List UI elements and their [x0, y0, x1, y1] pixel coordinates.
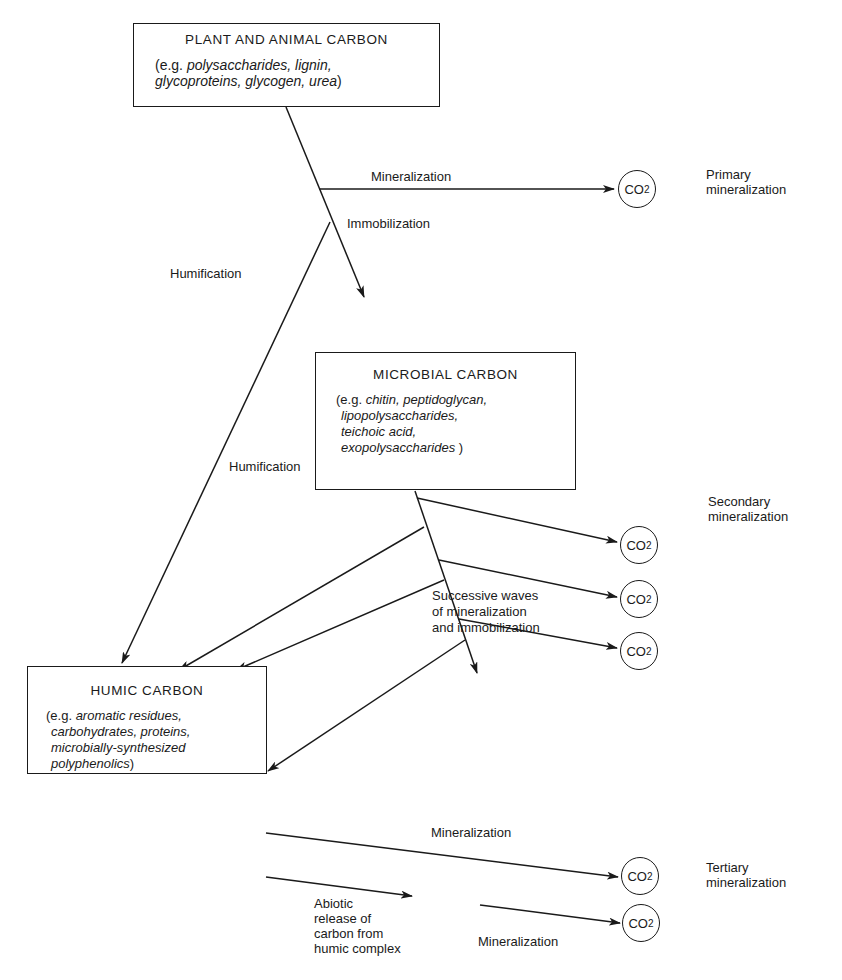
arrow-humification-return-1: [179, 527, 424, 670]
stage-secondary-mineralization: Secondarymineralization: [708, 494, 788, 524]
co2-abiotic: CO2: [622, 904, 660, 942]
humic-carbon-examples: (e.g. aromatic residues, carbohydrates, …: [28, 708, 266, 772]
co2-secondary-3: CO2: [620, 632, 658, 670]
microbial-carbon-box: MICROBIAL CARBON (e.g. chitin, peptidogl…: [315, 352, 576, 490]
plant-animal-carbon-box: PLANT AND ANIMAL CARBON (e.g. polysaccha…: [133, 23, 440, 107]
humic-carbon-title: HUMIC CARBON: [28, 683, 266, 698]
flow-arrows: [0, 0, 842, 980]
co2-primary: CO2: [618, 170, 656, 208]
microbial-carbon-examples: (e.g. chitin, peptidoglycan, lipopolysac…: [316, 392, 575, 456]
label-humification-1: Humification: [170, 266, 242, 281]
label-abiotic-release: Abiotic release of carbon from humic com…: [314, 896, 401, 956]
arrow-abiotic-release: [266, 877, 412, 896]
co2-secondary-1: CO2: [620, 526, 658, 564]
label-humification-2: Humification: [229, 459, 301, 474]
arrow-humification-return-2: [236, 580, 444, 670]
label-primary-mineralization: Mineralization: [371, 169, 451, 184]
arrow-humification-return-3: [268, 640, 465, 771]
label-abiotic-mineralization: Mineralization: [478, 934, 558, 949]
microbial-carbon-title: MICROBIAL CARBON: [316, 367, 575, 382]
arrow-immobilization: [286, 107, 364, 297]
arrow-secondary-mineralization-1: [417, 498, 617, 542]
label-tertiary-mineralization: Mineralization: [431, 825, 511, 840]
co2-tertiary: CO2: [621, 857, 659, 895]
humic-carbon-box: HUMIC CARBON (e.g. aromatic residues, ca…: [27, 666, 267, 774]
co2-secondary-2: CO2: [620, 580, 658, 618]
plant-animal-carbon-title: PLANT AND ANIMAL CARBON: [134, 32, 439, 47]
label-immobilization: Immobilization: [347, 216, 430, 231]
arrow-successive-waves: [415, 491, 477, 673]
stage-primary-mineralization: Primarymineralization: [706, 167, 786, 197]
arrow-humification-plant: [122, 222, 330, 663]
arrow-abiotic-mineralization: [480, 905, 620, 923]
label-successive-waves: Successive waves of mineralization and i…: [432, 588, 540, 636]
stage-tertiary-mineralization: Tertiarymineralization: [706, 860, 786, 890]
plant-animal-carbon-examples: (e.g. polysaccharides, lignin, glycoprot…: [134, 57, 439, 89]
